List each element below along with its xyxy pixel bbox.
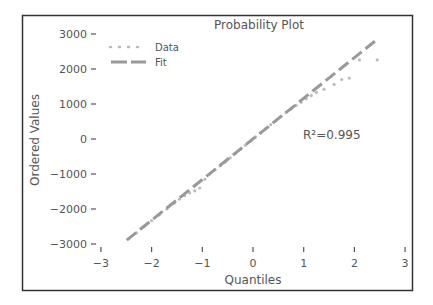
x-axis-label: Quantiles [224, 273, 281, 287]
data-point [198, 186, 201, 189]
data-point [193, 189, 196, 192]
y-axis-ticks: 3000200010000−1000−2000−3000 [50, 28, 96, 251]
data-point [333, 83, 336, 86]
x-tick-label: −2 [143, 257, 159, 270]
x-tick-label: −3 [93, 257, 109, 270]
data-point [269, 123, 272, 126]
y-tick-label: 0 [80, 133, 87, 146]
x-tick-label: −1 [194, 257, 210, 270]
x-tick-label: 0 [250, 257, 257, 270]
legend-fit-label: Fit [155, 57, 167, 68]
data-point [376, 58, 379, 61]
data-series-points [127, 58, 379, 240]
legend: Data Fit [110, 42, 179, 68]
data-point [340, 78, 343, 81]
y-tick-label: 2000 [59, 63, 87, 76]
data-point [315, 91, 318, 94]
probability-plot: Probability Plot Ordered Values Quantile… [0, 0, 433, 305]
chart-title: Probability Plot [214, 18, 304, 32]
data-point [203, 178, 206, 181]
data-point [358, 58, 361, 61]
y-tick-label: −1000 [50, 168, 87, 181]
data-point [348, 77, 351, 80]
data-point [322, 88, 325, 91]
y-tick-label: 1000 [59, 98, 87, 111]
x-axis-ticks: −3−2−10123 [93, 247, 409, 270]
y-axis-label: Ordered Values [28, 94, 42, 186]
y-tick-label: −3000 [50, 238, 87, 251]
y-tick-label: 3000 [59, 28, 87, 41]
r-squared-annotation: R²=0.995 [303, 128, 361, 142]
data-point [310, 94, 313, 97]
y-tick-label: −2000 [50, 203, 87, 216]
x-tick-label: 1 [300, 257, 307, 270]
x-tick-label: 3 [402, 257, 409, 270]
x-tick-label: 2 [351, 257, 358, 270]
data-point [150, 219, 153, 222]
legend-data-label: Data [155, 42, 179, 53]
